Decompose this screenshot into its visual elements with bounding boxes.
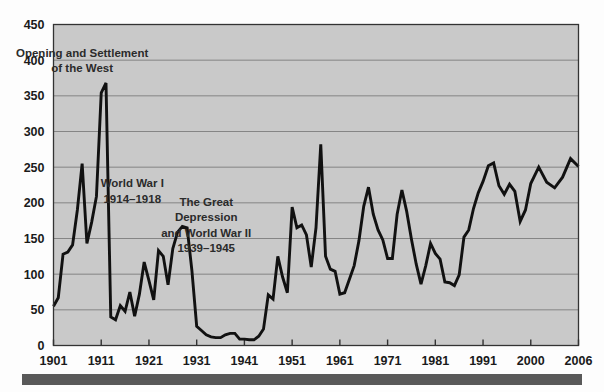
x-tick-label: 1971 — [374, 354, 402, 368]
x-tick-label: 1941 — [231, 354, 259, 368]
x-tick-label: 1951 — [278, 354, 306, 368]
annotation-great-depression-wwii-line-1: The Great — [179, 196, 233, 208]
immigration-line-chart: 050100150200250300350400450 190119111921… — [0, 0, 604, 392]
annotation-great-depression-wwii-line-2: Depression — [175, 211, 238, 223]
annotation-great-depression-wwii-line-3: and World War II — [161, 227, 251, 239]
annotation-opening-west-line-1: Opening and Settlement — [16, 47, 148, 59]
x-tick-label: 1961 — [326, 354, 354, 368]
x-tick-label: 1931 — [183, 354, 211, 368]
x-tick-label: 2006 — [565, 354, 593, 368]
x-tick-label: 1901 — [40, 354, 68, 368]
y-tick-label: 350 — [24, 89, 45, 103]
y-tick-label: 250 — [24, 161, 45, 175]
x-tick-label: 1911 — [88, 354, 115, 368]
chart-figure: 050100150200250300350400450 190119111921… — [0, 0, 604, 392]
annotation-great-depression-wwii-line-4: 1939–1945 — [177, 242, 235, 254]
annotation-world-war-one-line-2: 1914–1918 — [103, 193, 161, 205]
y-tick-label: 100 — [24, 268, 45, 282]
x-tick-label: 1921 — [135, 354, 163, 368]
annotation-world-war-one-line-1: World War I — [101, 177, 164, 189]
x-tick-label: 1991 — [469, 354, 497, 368]
y-tick-label: 450 — [24, 18, 45, 32]
y-axis-ticks: 050100150200250300350400450 — [24, 18, 45, 353]
y-tick-label: 150 — [24, 232, 45, 246]
y-tick-label: 0 — [38, 339, 45, 353]
annotation-opening-west-line-2: of the West — [51, 62, 113, 74]
y-tick-label: 200 — [24, 196, 45, 210]
y-tick-label: 300 — [24, 125, 45, 139]
x-tick-label: 1981 — [421, 354, 449, 368]
y-tick-label: 50 — [31, 303, 45, 317]
bottom-decorative-bar — [22, 374, 582, 385]
x-tick-label: 2000 — [517, 354, 545, 368]
